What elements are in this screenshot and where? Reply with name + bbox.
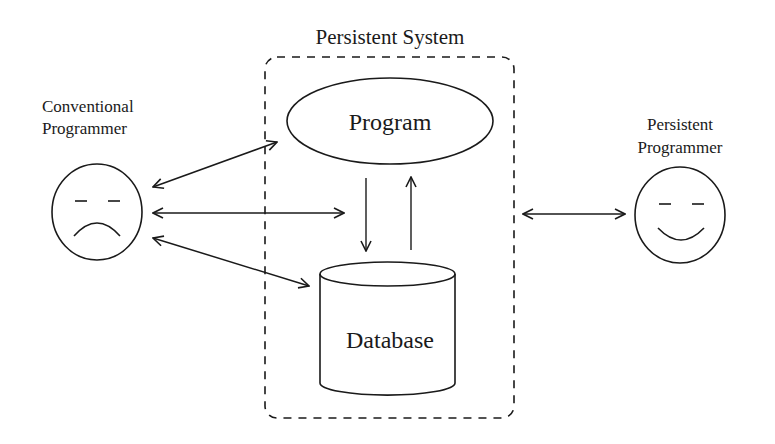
sad-face-icon: [52, 164, 142, 260]
happy-face-icon: [635, 167, 725, 263]
persistent-programmer-label-line2: Programmer: [638, 138, 723, 157]
program-node: Program: [287, 78, 493, 164]
database-label: Database: [346, 327, 434, 353]
conventional-to-program-arrow: [153, 142, 277, 187]
conventional-programmer-label-line1: Conventional: [42, 97, 134, 116]
diagram-canvas: Persistent System Program Database Conve…: [0, 0, 775, 444]
program-label: Program: [349, 109, 432, 135]
persistent-programmer-label-line1: Persistent: [647, 115, 713, 134]
conventional-programmer-label-line2: Programmer: [42, 119, 127, 138]
database-node: Database: [320, 262, 455, 395]
conventional-to-database-arrow: [153, 238, 309, 286]
system-title: Persistent System: [316, 25, 465, 49]
